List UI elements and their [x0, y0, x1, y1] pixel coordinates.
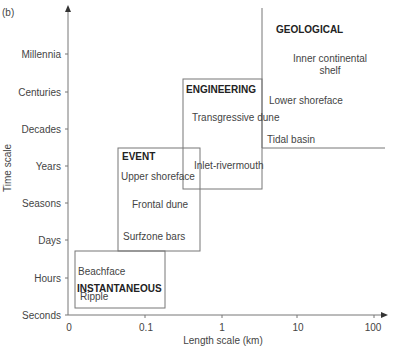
label-shelf: shelf	[319, 65, 340, 76]
y-tick-centuries: Centuries	[18, 87, 61, 98]
label-beachface: Beachface	[78, 266, 126, 277]
y-tick-millennia: Millennia	[22, 49, 62, 60]
label-frontal-dune: Frontal dune	[132, 199, 189, 210]
label-upper-shoreface: Upper shoreface	[121, 171, 195, 182]
label-surfzone-bars: Surfzone bars	[123, 231, 185, 242]
panel-label: (b)	[2, 7, 14, 18]
label-inlet-rivermouth: Inlet-rivermouth	[194, 160, 263, 171]
x-tick-1: 1	[219, 322, 225, 333]
label-tidal-basin: Tidal basin	[267, 134, 315, 145]
scale-diagram: (b) Seconds Hours Days Seasons Years Dec…	[0, 0, 393, 346]
x-axis-arrow-icon	[381, 312, 388, 318]
y-axis-title: Time scale	[2, 144, 13, 192]
y-tick-labels: Seconds Hours Days Seasons Years Decades…	[18, 49, 61, 321]
y-axis-arrow-icon	[65, 5, 71, 12]
y-tick-seconds: Seconds	[22, 310, 61, 321]
x-tick-labels: 0 0.1 1 10 100	[66, 322, 382, 333]
x-tick-0: 0	[66, 322, 72, 333]
x-tick-100: 100	[365, 322, 382, 333]
label-inner-continental: Inner continental	[293, 53, 367, 64]
y-tick-hours: Hours	[34, 273, 61, 284]
label-lower-shoreface: Lower shoreface	[269, 95, 343, 106]
x-tick-10: 10	[292, 322, 304, 333]
y-tick-days: Days	[38, 235, 61, 246]
x-axis-title: Length scale (km)	[183, 335, 262, 346]
y-tick-years: Years	[36, 161, 61, 172]
label-transgressive-dune: Transgressive dune	[192, 112, 280, 123]
y-tick-seasons: Seasons	[22, 198, 61, 209]
label-event: EVENT	[122, 151, 155, 162]
label-engineering: ENGINEERING	[186, 84, 256, 95]
label-ripple: Ripple	[80, 291, 109, 302]
label-geological: GEOLOGICAL	[276, 24, 343, 35]
x-tick-0-1: 0.1	[139, 322, 153, 333]
y-tick-decades: Decades	[22, 124, 61, 135]
